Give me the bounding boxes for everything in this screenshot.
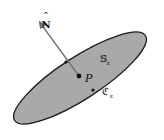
surface-subscript: ε: [107, 59, 110, 66]
point-p-dot: [77, 74, 82, 79]
normal-label: N: [41, 19, 50, 30]
normal-hat-label: ^: [43, 10, 49, 19]
surface-diagram: ^ N 𝕊 ε P ℭ ε: [0, 0, 164, 140]
point-p-label: P: [84, 72, 93, 85]
curve-subscript: ε: [110, 92, 113, 99]
boundary-crossing-dot: [64, 60, 67, 63]
curve-label: ℭ: [102, 86, 109, 97]
curve-point-dot: [91, 88, 94, 91]
